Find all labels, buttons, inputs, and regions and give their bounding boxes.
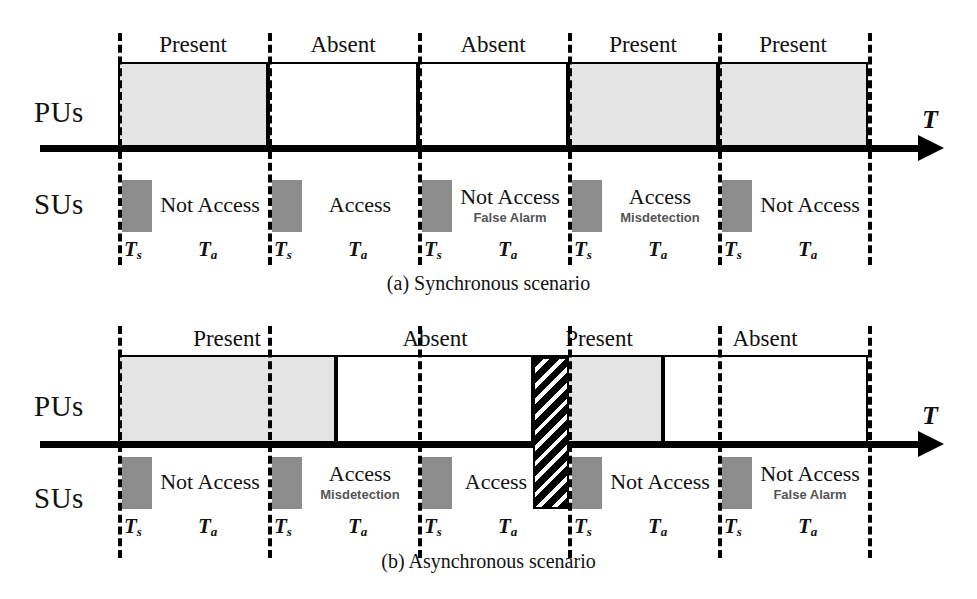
su-decision-note-b-4: False Alarm (752, 485, 868, 505)
tick-ts-letter: T (724, 514, 737, 538)
su-decision-label-b-2: Access (446, 470, 546, 493)
time-axis-arrowhead-a (918, 135, 944, 161)
caption-panel-b: (b) Asynchronous scenario (0, 550, 977, 573)
pu-state-label-b-3: Absent (690, 326, 840, 352)
tick-ts-letter: T (124, 514, 137, 538)
tick-ta-sub: a (511, 247, 518, 262)
su-decision-note-a-2: False Alarm (452, 208, 568, 228)
su-decision-a-2: Not Access False Alarm (452, 185, 568, 228)
pu-box-b-0 (118, 355, 336, 445)
sensing-block-b-0 (122, 457, 152, 509)
tick-ts-letter: T (274, 514, 287, 538)
row-label-pus-b: PUs (34, 390, 84, 423)
tick-ta-sub: a (511, 524, 518, 539)
tick-ta-letter: T (498, 237, 511, 261)
su-decision-note-b-1: Misdetection (302, 485, 418, 505)
pu-state-label-a-4: Present (718, 32, 868, 58)
tick-ts-letter: T (574, 514, 587, 538)
tick-ts-b-1: Ts (274, 514, 292, 539)
row-label-sus-a: SUs (34, 188, 84, 221)
su-decision-label-a-1: Access (302, 193, 418, 216)
tick-ts-letter: T (724, 237, 737, 261)
row-label-sus-b: SUs (34, 482, 84, 515)
time-axis-arrowhead-b (918, 431, 944, 457)
sensing-block-a-1 (272, 180, 302, 232)
frame-boundary-b-5 (868, 326, 872, 558)
pu-state-label-a-3: Present (568, 32, 718, 58)
su-decision-a-1: Access (302, 193, 418, 216)
pu-state-label-a-0: Present (118, 32, 268, 58)
tick-ta-b-3: Ta (648, 514, 667, 539)
tick-ts-sub: s (287, 524, 292, 539)
sensing-block-b-3 (572, 457, 602, 509)
pu-state-label-a-2: Absent (418, 32, 568, 58)
tick-ta-b-0: Ta (198, 514, 217, 539)
tick-ta-sub: a (811, 524, 818, 539)
tick-ts-sub: s (137, 524, 142, 539)
time-axis-a (40, 145, 920, 152)
tick-ts-letter: T (424, 237, 437, 261)
tick-ta-sub: a (361, 247, 368, 262)
frame-boundary-b-1 (268, 326, 272, 558)
sensing-block-b-1 (272, 457, 302, 509)
tick-ta-letter: T (348, 237, 361, 261)
su-decision-b-0: Not Access (152, 470, 268, 493)
tick-ta-b-4: Ta (798, 514, 817, 539)
frame-boundary-b-0 (118, 326, 122, 558)
su-decision-a-3: Access Misdetection (602, 185, 718, 228)
su-decision-b-4: Not Access False Alarm (752, 462, 868, 505)
su-decision-label-b-3: Not Access (602, 470, 718, 493)
time-axis-b (40, 441, 920, 448)
tick-ta-a-3: Ta (648, 237, 667, 262)
pu-box-a-1 (268, 62, 418, 149)
tick-ts-sub: s (137, 247, 142, 262)
sensing-block-b-4 (722, 457, 752, 509)
tick-ts-sub: s (737, 524, 742, 539)
tick-ta-a-1: Ta (348, 237, 367, 262)
tick-ta-letter: T (648, 237, 661, 261)
pu-box-a-3 (568, 62, 718, 149)
row-label-pus-a: PUs (34, 96, 84, 129)
tick-ts-sub: s (437, 524, 442, 539)
tick-ta-letter: T (648, 514, 661, 538)
tick-ta-sub: a (211, 524, 218, 539)
pu-box-a-2 (418, 62, 568, 149)
tick-ts-sub: s (587, 524, 592, 539)
tick-ta-sub: a (361, 524, 368, 539)
pu-box-a-4 (718, 62, 868, 149)
tick-ta-sub: a (661, 524, 668, 539)
su-decision-b-1: Access Misdetection (302, 462, 418, 505)
tick-ta-a-2: Ta (498, 237, 517, 262)
tick-ts-b-0: Ts (124, 514, 142, 539)
pu-state-label-a-1: Absent (268, 32, 418, 58)
su-decision-b-2: Access (446, 470, 546, 493)
su-decision-a-4: Not Access (752, 193, 868, 216)
tick-ts-letter: T (124, 237, 137, 261)
pu-box-a-0 (118, 62, 268, 149)
pu-state-label-b-0: Present (152, 326, 302, 352)
tick-ta-letter: T (198, 237, 211, 261)
tick-ts-letter: T (574, 237, 587, 261)
tick-ta-b-2: Ta (498, 514, 517, 539)
sensing-block-a-4 (722, 180, 752, 232)
tick-ts-a-4: Ts (724, 237, 742, 262)
time-axis-label-b: T (922, 401, 938, 431)
su-decision-label-b-4: Not Access (752, 462, 868, 485)
tick-ts-sub: s (437, 247, 442, 262)
su-decision-label-a-3: Access (602, 185, 718, 208)
tick-ts-sub: s (287, 247, 292, 262)
tick-ts-b-4: Ts (724, 514, 742, 539)
caption-panel-a: (a) Synchronous scenario (0, 272, 977, 295)
su-decision-a-0: Not Access (152, 193, 268, 216)
frame-boundary-a-5 (868, 33, 872, 265)
pu-box-b-1 (336, 355, 533, 445)
tick-ts-a-1: Ts (274, 237, 292, 262)
tick-ta-letter: T (798, 237, 811, 261)
tick-ta-sub: a (811, 247, 818, 262)
pu-box-b-3 (663, 355, 868, 445)
tick-ts-a-2: Ts (424, 237, 442, 262)
sensing-block-a-2 (422, 180, 452, 232)
tick-ts-a-0: Ts (124, 237, 142, 262)
tick-ts-b-2: Ts (424, 514, 442, 539)
su-decision-note-a-3: Misdetection (602, 208, 718, 228)
